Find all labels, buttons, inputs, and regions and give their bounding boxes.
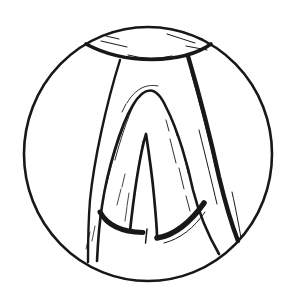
larynx-sketch <box>0 0 294 295</box>
sketch-canvas <box>0 0 294 295</box>
